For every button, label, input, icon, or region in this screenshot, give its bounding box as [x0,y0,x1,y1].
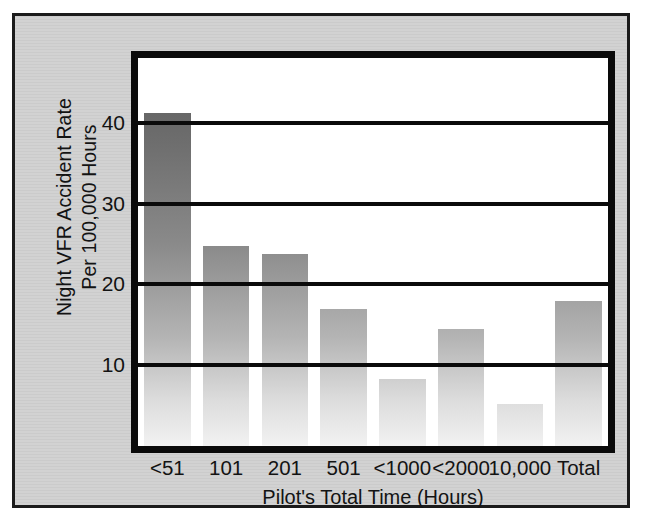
gridline-30 [138,202,608,206]
x-tick-label-7: Total [557,456,600,480]
plot-area [138,58,608,446]
plot-area-frame [131,51,615,453]
gridline-40 [138,121,608,125]
y-tick-label: 40 [71,111,125,135]
gridline-10 [138,363,608,367]
bar-category-6 [497,404,543,446]
x-axis-title: Pilot's Total Time (Hours) [131,486,615,509]
bar-category-0 [144,113,190,446]
x-tick-label-6: 10,000 [489,456,552,480]
y-tick-label: 30 [71,192,125,216]
bar-category-4 [379,379,425,446]
x-tick-label-5: <2000 [432,456,490,480]
bar-category-1 [203,246,249,446]
figure-outer-frame: Night VFR Accident Rate Per 100,000 Hour… [12,13,630,508]
figure-canvas: Night VFR Accident Rate Per 100,000 Hour… [0,0,647,518]
bar-category-7 [555,301,601,447]
gridline-20 [138,282,608,286]
y-axis-tick-labels: 40 30 20 10 [63,51,125,463]
bar-category-3 [320,309,366,446]
x-tick-label-3: 501 [327,456,361,480]
x-axis-tick-labels: <51 101 201 501 <1000 <2000 10,000 Total [131,456,615,486]
y-tick-label: 10 [71,353,125,377]
bar-category-5 [438,329,484,446]
x-tick-label-2: 201 [268,456,302,480]
y-tick-label: 20 [71,272,125,296]
x-tick-label-1: 101 [209,456,243,480]
x-tick-label-0: <51 [150,456,185,480]
x-tick-label-4: <1000 [374,456,432,480]
